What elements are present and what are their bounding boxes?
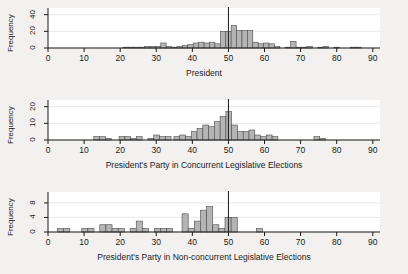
x-tick-label: 40 bbox=[180, 53, 204, 63]
histogram-bar bbox=[291, 41, 296, 48]
y-tick-label: 20 bbox=[28, 22, 37, 40]
x-tick-label: 0 bbox=[36, 237, 60, 247]
histogram-bar bbox=[253, 42, 258, 48]
histogram-bar bbox=[207, 207, 213, 232]
x-ticks-3 bbox=[48, 232, 373, 236]
histogram-bar bbox=[231, 217, 237, 232]
x-tick-label: 80 bbox=[325, 145, 349, 155]
y-tick-label: 8 bbox=[28, 193, 37, 211]
x-ticks-1 bbox=[48, 48, 373, 52]
x-tick-label: 30 bbox=[144, 53, 168, 63]
histogram-panel-nonconcurrent: Frequency 048 0102030405060708090 Presid… bbox=[0, 184, 408, 274]
histogram-bar bbox=[264, 43, 269, 48]
histogram-bar bbox=[242, 31, 247, 49]
histogram-bar bbox=[209, 42, 214, 48]
histogram-bar bbox=[82, 228, 88, 232]
x-axis-title-1: President bbox=[0, 68, 408, 78]
histogram-bar bbox=[219, 228, 225, 232]
y-tick-label: 40 bbox=[28, 5, 37, 23]
histogram-bar bbox=[160, 228, 166, 232]
histogram-bar bbox=[220, 117, 226, 140]
x-tick-label: 30 bbox=[144, 145, 168, 155]
y-tick-label: 20 bbox=[28, 97, 37, 115]
y-ticks-3 bbox=[44, 203, 48, 232]
x-tick-label: 70 bbox=[289, 145, 313, 155]
histogram-bar bbox=[232, 125, 238, 140]
figure-container: Frequency 0 bbox=[0, 0, 408, 274]
plot-area-1 bbox=[0, 0, 408, 92]
x-tick-label: 40 bbox=[180, 145, 204, 155]
histogram-bar bbox=[266, 135, 272, 140]
histogram-bar bbox=[118, 228, 124, 232]
histogram-bar bbox=[237, 31, 242, 49]
histogram-bar bbox=[214, 122, 220, 140]
y-tick-label: 10 bbox=[28, 114, 37, 132]
y-ticks-1 bbox=[44, 15, 48, 48]
histogram-bar bbox=[256, 228, 262, 232]
x-tick-label: 60 bbox=[253, 237, 277, 247]
histogram-bar bbox=[167, 228, 173, 232]
histogram-bar bbox=[199, 42, 204, 48]
x-tick-label: 60 bbox=[253, 53, 277, 63]
x-tick-label: 0 bbox=[36, 145, 60, 155]
x-tick-label: 10 bbox=[72, 145, 96, 155]
x-tick-label: 50 bbox=[216, 237, 240, 247]
x-tick-label: 10 bbox=[72, 237, 96, 247]
histogram-bar bbox=[106, 225, 112, 232]
x-tick-label: 40 bbox=[180, 237, 204, 247]
histogram-bar bbox=[154, 228, 160, 232]
y-ticks-2 bbox=[44, 107, 48, 140]
x-tick-label: 80 bbox=[325, 237, 349, 247]
histogram-bar bbox=[249, 130, 255, 140]
histogram-bar bbox=[269, 44, 274, 48]
histogram-bar bbox=[255, 135, 261, 140]
x-tick-label: 10 bbox=[72, 53, 96, 63]
x-tick-label: 50 bbox=[216, 53, 240, 63]
histogram-bar bbox=[194, 221, 200, 232]
histogram-bar bbox=[243, 132, 249, 140]
x-tick-label: 70 bbox=[289, 237, 313, 247]
histogram-panel-concurrent: Frequency 01020 0102030405060708090 Pres… bbox=[0, 92, 408, 184]
histogram-bar bbox=[88, 228, 94, 232]
histogram-bar bbox=[112, 228, 118, 232]
histogram-bar bbox=[220, 31, 225, 48]
x-tick-label: 20 bbox=[108, 53, 132, 63]
x-tick-label: 50 bbox=[216, 145, 240, 155]
x-tick-label: 70 bbox=[289, 53, 313, 63]
plot-area-2 bbox=[0, 92, 408, 184]
x-tick-label: 80 bbox=[325, 53, 349, 63]
histogram-bar bbox=[209, 127, 215, 140]
histogram-bar bbox=[247, 31, 252, 49]
histogram-bar bbox=[213, 225, 219, 232]
histogram-bar bbox=[203, 125, 209, 140]
histogram-bar bbox=[193, 43, 198, 48]
x-tick-label: 90 bbox=[361, 237, 385, 247]
histogram-bar bbox=[136, 221, 142, 232]
histogram-bar bbox=[237, 132, 243, 140]
histogram-panel-president: Frequency 0 bbox=[0, 0, 408, 92]
histogram-bar bbox=[231, 26, 236, 49]
histogram-bar bbox=[215, 44, 220, 48]
x-axis-title-2: President's Party in Concurrent Legislat… bbox=[0, 160, 408, 170]
histogram-bar bbox=[204, 43, 209, 48]
histogram-bar bbox=[182, 214, 188, 232]
histogram-bar bbox=[142, 228, 148, 232]
histogram-bar bbox=[200, 210, 206, 232]
histogram-bar bbox=[188, 228, 194, 232]
x-tick-label: 0 bbox=[36, 53, 60, 63]
x-ticks-2 bbox=[48, 140, 373, 144]
x-tick-label: 30 bbox=[144, 237, 168, 247]
x-tick-label: 20 bbox=[108, 145, 132, 155]
histogram-bar bbox=[197, 128, 203, 140]
histogram-bar bbox=[64, 228, 70, 232]
histogram-bar bbox=[154, 135, 160, 140]
histogram-bar bbox=[130, 228, 136, 232]
histogram-bar bbox=[191, 132, 197, 140]
histogram-bar bbox=[258, 44, 263, 48]
x-tick-label: 20 bbox=[108, 237, 132, 247]
histogram-bar bbox=[180, 135, 186, 140]
x-tick-label: 60 bbox=[253, 145, 277, 155]
x-axis-title-3: President's Party in Non-concurrent Legi… bbox=[0, 252, 408, 262]
histogram-bar bbox=[161, 43, 166, 48]
histogram-bar bbox=[100, 225, 106, 232]
